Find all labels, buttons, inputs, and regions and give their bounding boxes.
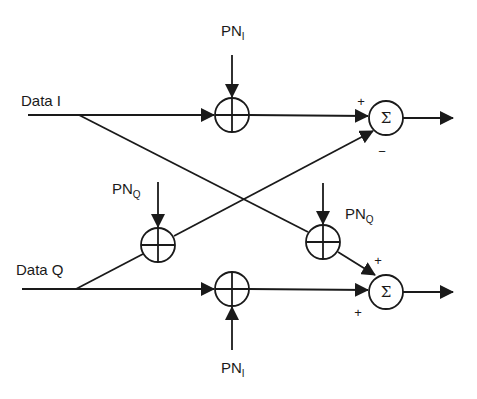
sum-bottom-sign-lower: + [354, 305, 362, 320]
mixer-top-to-sum-top [249, 115, 368, 116]
sum-top-sign-lower: − [378, 144, 386, 159]
data-q-cross-line [76, 254, 143, 289]
mixer-bottom-icon [215, 272, 249, 306]
spreading-block-diagram: Σ Σ + − + + Data I Data Q PNI PNQ PNQ PN… [0, 0, 477, 399]
pn-q-right-label: PNQ [345, 205, 374, 225]
mixer-i-cross-to-sum-bottom [338, 252, 375, 275]
sum-bottom-sign-upper: + [374, 253, 382, 268]
pn-i-bottom-label: PNI [221, 359, 245, 379]
mixer-q-cross-to-sum-top [174, 131, 373, 236]
data-i-label: Data I [21, 92, 61, 109]
data-q-label: Data Q [16, 261, 64, 278]
mixer-top-icon [215, 98, 249, 132]
pn-q-left-label: PNQ [112, 180, 141, 200]
mixer-bottom-to-sum-bottom [249, 289, 368, 290]
sum-bottom-symbol: Σ [381, 283, 392, 301]
mixer-q-cross-icon [141, 228, 175, 262]
sum-top-symbol: Σ [381, 109, 392, 127]
data-i-cross-line [79, 115, 308, 232]
pn-i-top-label: PNI [221, 22, 245, 42]
sum-top-sign-upper: + [357, 94, 365, 109]
mixer-i-cross-icon [306, 225, 340, 259]
